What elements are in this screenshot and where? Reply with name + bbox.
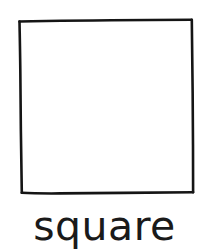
square-bottom-edge — [22, 192, 193, 193]
shape-label: square — [33, 206, 176, 247]
shape-illustration-area — [0, 0, 209, 200]
square-right-edge — [192, 20, 193, 192]
shape-flashcard: square — [0, 0, 209, 250]
square-left-edge — [20, 22, 22, 193]
square-outline-icon — [0, 0, 209, 200]
shape-label-area: square — [0, 200, 209, 250]
square-top-edge — [20, 20, 192, 22]
